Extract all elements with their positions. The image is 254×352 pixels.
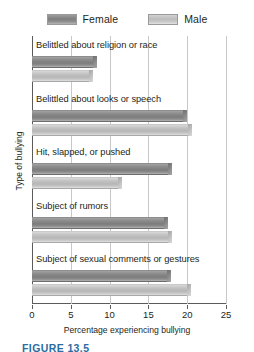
bar-male (32, 231, 172, 243)
bar-group: Subject of sexual comments or gestures (32, 250, 226, 304)
bar-group: Belittled about religion or race (32, 36, 226, 90)
x-tick-label: 10 (95, 309, 125, 320)
category-label: Subject of sexual comments or gestures (36, 254, 199, 264)
bar-end-cap (167, 270, 171, 282)
bar-female (32, 217, 168, 229)
bar-group: Hit, slapped, or pushed (32, 143, 226, 197)
y-axis-title: Type of bullying (14, 101, 24, 221)
figure-caption: FIGURE 13.5 (22, 342, 89, 352)
bar-male (32, 177, 122, 189)
legend-label-female: Female (83, 13, 119, 25)
bar-body (32, 70, 89, 82)
bar-body (32, 217, 164, 229)
bar-female (32, 270, 171, 282)
legend-label-male: Male (184, 13, 207, 25)
bar-end-cap (89, 70, 93, 82)
category-label: Belittled about religion or race (36, 40, 157, 50)
category-label: Belittled about looks or speech (36, 94, 161, 104)
chart-legend: Female Male (0, 13, 254, 25)
bar-end-cap (93, 56, 97, 68)
bar-male (32, 284, 191, 296)
x-tick-label: 5 (56, 309, 86, 320)
bar-female (32, 110, 187, 122)
x-tick-label: 20 (172, 309, 202, 320)
bar-group: Belittled about looks or speech (32, 90, 226, 144)
legend-item-male: Male (148, 13, 207, 25)
bar-body (32, 163, 168, 175)
bar-end-cap (183, 110, 187, 122)
bar-male (32, 70, 93, 82)
bar-male (32, 124, 192, 136)
x-tick-label: 0 (17, 309, 47, 320)
x-axis-title: Percentage experiencing bullying (0, 325, 254, 335)
bar-body (32, 284, 187, 296)
grid-line (226, 36, 227, 304)
legend-swatch-male (148, 14, 178, 25)
bar-body (32, 56, 93, 68)
bar-female (32, 56, 97, 68)
x-tick-label: 25 (211, 309, 241, 320)
bar-end-cap (168, 163, 172, 175)
bar-body (32, 124, 188, 136)
bar-end-cap (168, 231, 172, 243)
bar-female (32, 163, 172, 175)
bar-body (32, 177, 118, 189)
plot-area: Belittled about religion or raceBelittle… (32, 36, 226, 304)
bar-end-cap (164, 217, 168, 229)
bar-end-cap (187, 284, 191, 296)
bar-end-cap (188, 124, 192, 136)
category-label: Subject of rumors (36, 201, 108, 211)
bar-body (32, 231, 168, 243)
category-label: Hit, slapped, or pushed (36, 147, 130, 157)
bar-body (32, 270, 167, 282)
bar-group: Subject of rumors (32, 197, 226, 251)
bar-body (32, 110, 183, 122)
legend-swatch-female (47, 14, 77, 25)
legend-item-female: Female (47, 13, 119, 25)
x-tick-label: 15 (133, 309, 163, 320)
bar-end-cap (118, 177, 122, 189)
